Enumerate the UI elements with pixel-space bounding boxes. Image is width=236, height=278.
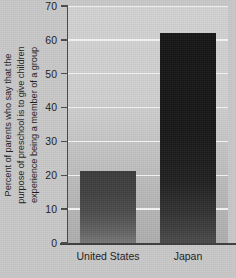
y-tick-label: 10 xyxy=(27,204,57,215)
y-tick-label: 20 xyxy=(27,170,57,181)
y-tick-label: 40 xyxy=(27,102,57,113)
chart-screenshot: Percent of parents who say that the purp… xyxy=(0,0,236,278)
y-tick-label: 70 xyxy=(27,1,57,12)
bar-united-states xyxy=(80,171,136,243)
y-tick-label: 0 xyxy=(27,238,57,249)
y-tick-mark xyxy=(61,107,68,108)
y-tick-label: 50 xyxy=(27,69,57,80)
y-tick-mark xyxy=(61,5,68,6)
y-tick-mark xyxy=(61,141,68,142)
plot-area xyxy=(68,6,228,243)
y-tick-mark xyxy=(61,175,68,176)
y-tick-mark xyxy=(61,242,68,243)
y-tick-label: 60 xyxy=(27,35,57,46)
y-tick-mark xyxy=(61,208,68,209)
x-axis-line xyxy=(60,243,236,245)
y-tick-mark xyxy=(61,73,68,74)
y-tick-mark xyxy=(61,39,68,40)
gridline xyxy=(68,6,228,7)
y-axis-title-line-1: Percent of parents who say that the xyxy=(2,3,15,247)
plot-inner xyxy=(68,6,228,243)
y-tick-label: 30 xyxy=(27,136,57,147)
bar-japan xyxy=(160,33,216,243)
x-axis-label-japan: Japan xyxy=(138,250,236,262)
